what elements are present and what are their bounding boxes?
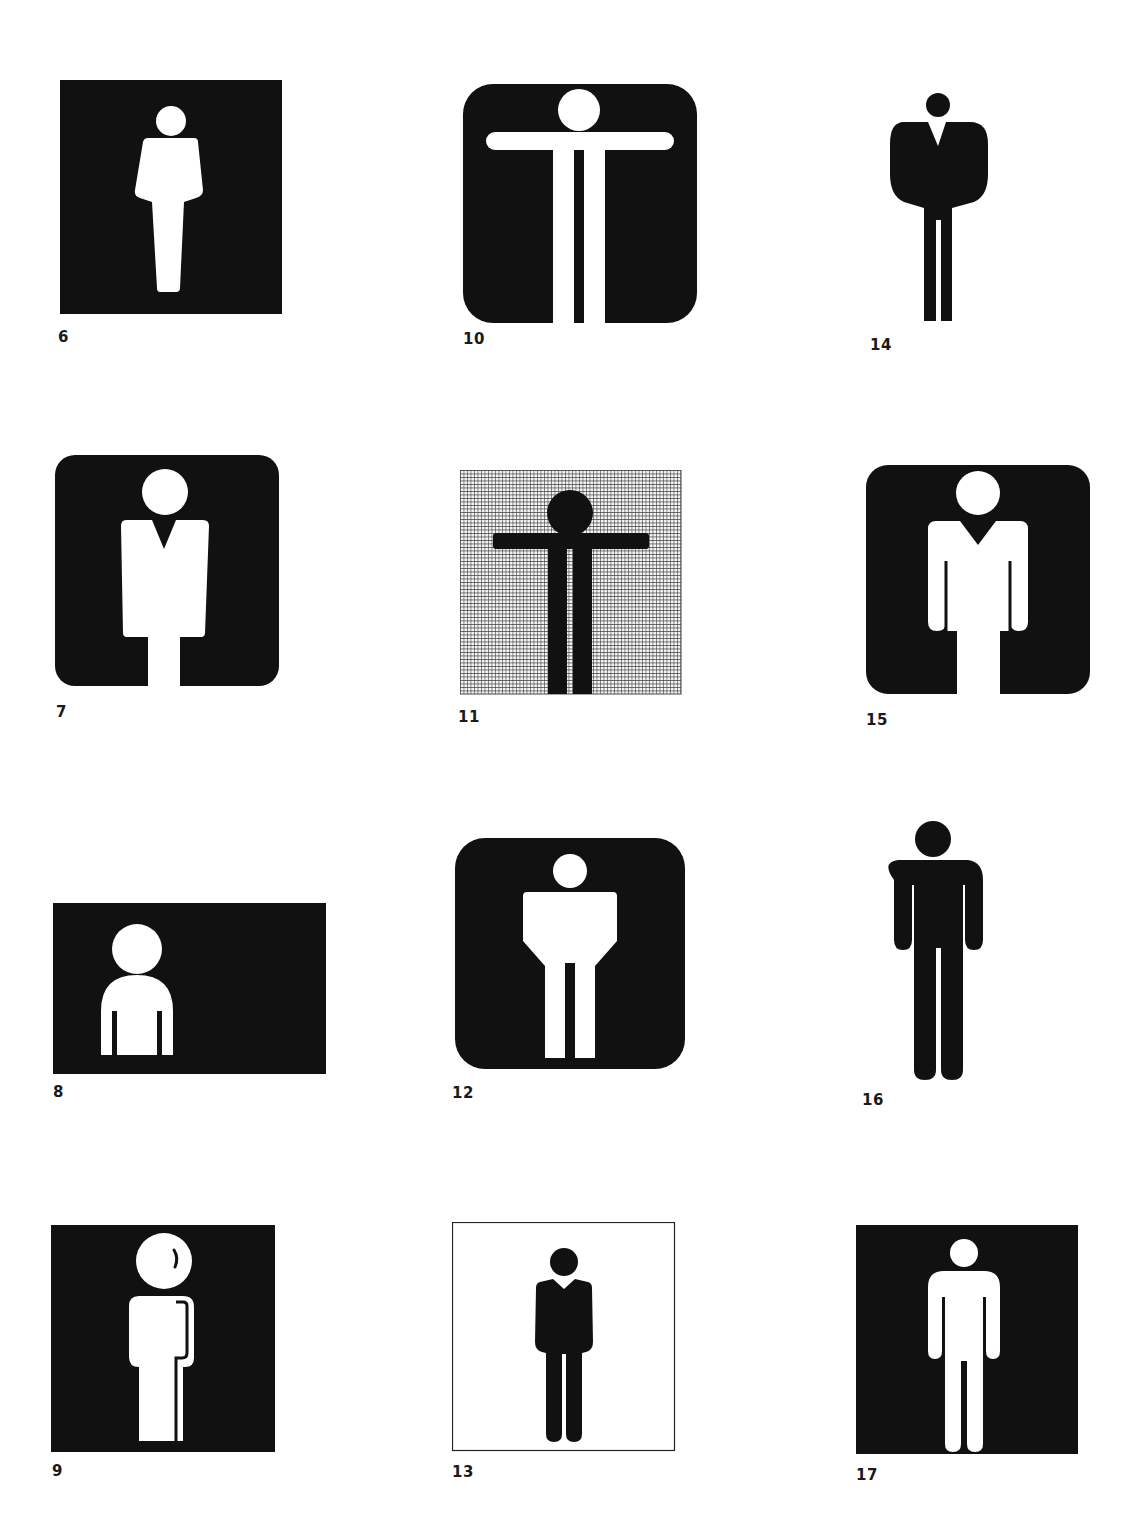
pictogram-15 <box>866 465 1091 695</box>
man-icon <box>51 1225 276 1453</box>
pictogram-12 <box>455 838 687 1070</box>
pictogram-number: 9 <box>52 1462 63 1480</box>
pictogram-number: 13 <box>452 1463 474 1481</box>
pictogram-number: 14 <box>870 336 892 354</box>
man-icon <box>888 92 992 324</box>
pictogram-number: 11 <box>458 708 480 726</box>
pictogram-8 <box>53 903 327 1075</box>
pictogram-number: 6 <box>58 328 69 346</box>
pictogram-14 <box>888 92 992 324</box>
pictogram-number: 7 <box>56 703 67 721</box>
pictogram-7 <box>55 455 280 687</box>
pictogram-number: 12 <box>452 1084 474 1102</box>
man-icon <box>878 820 986 1082</box>
man-grid-icon <box>460 470 682 695</box>
man-icon <box>856 1225 1080 1455</box>
pictogram-9 <box>51 1225 276 1453</box>
pictogram-number: 15 <box>866 711 888 729</box>
man-icon <box>55 455 280 687</box>
pictogram-17 <box>856 1225 1080 1455</box>
pictogram-13 <box>452 1222 676 1452</box>
pictogram-6 <box>60 80 284 316</box>
pictogram-number: 10 <box>463 330 485 348</box>
man-bust-icon <box>53 903 327 1075</box>
man-icon <box>463 84 699 324</box>
pictogram-10 <box>463 84 699 324</box>
man-icon <box>60 80 284 316</box>
pictogram-16 <box>878 820 986 1082</box>
pictogram-number: 16 <box>862 1091 884 1109</box>
man-icon <box>866 465 1091 695</box>
pictogram-11 <box>460 470 682 695</box>
pictogram-number: 8 <box>53 1083 64 1101</box>
man-icon <box>455 838 687 1070</box>
pictogram-number: 17 <box>856 1466 878 1484</box>
man-icon <box>452 1222 676 1452</box>
